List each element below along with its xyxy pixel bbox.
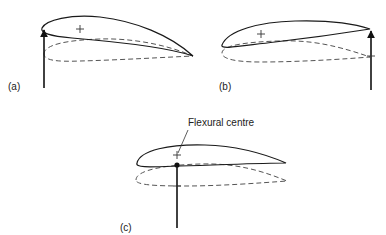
panel-b [222, 21, 375, 90]
flexural-centre-annotation: Flexural centre [188, 117, 254, 128]
deflected-section-outline [42, 16, 193, 56]
panel-c [136, 130, 287, 228]
annotation-leader [178, 130, 188, 153]
flexural-centre-marker [173, 151, 181, 159]
flexural-centre-marker [76, 25, 84, 33]
panel-a [42, 16, 193, 88]
original-section-outline [222, 41, 370, 62]
panel-label-a: (a) [8, 81, 20, 92]
flexural-centre-marker [257, 30, 265, 38]
panel-label-b: (b) [219, 81, 231, 92]
panel-label-c: (c) [120, 222, 132, 233]
